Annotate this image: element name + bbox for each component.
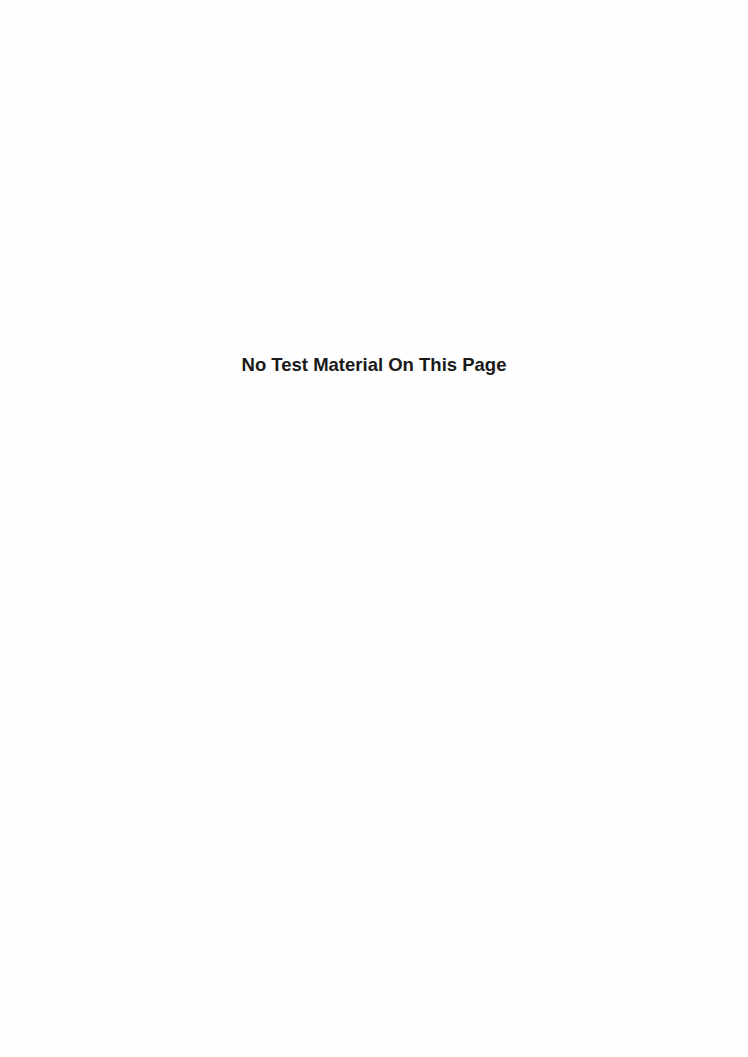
no-material-notice: No Test Material On This Page — [0, 352, 748, 378]
document-page: No Test Material On This Page — [0, 0, 748, 1057]
